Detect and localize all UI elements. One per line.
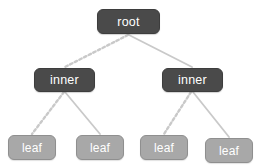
tree-node-inner2[interactable]: inner xyxy=(162,68,223,92)
tree-node-inner1[interactable]: inner xyxy=(34,68,95,92)
tree-edge-root-to-inner2 xyxy=(129,35,192,67)
tree-node-leaf4[interactable]: leaf xyxy=(205,138,253,163)
tree-node-label: inner xyxy=(50,73,79,87)
tree-node-label: leaf xyxy=(219,144,239,158)
tree-node-leaf3[interactable]: leaf xyxy=(140,135,188,160)
tree-diagram: rootinnerinnerleafleafleafleaf xyxy=(0,0,261,168)
tree-node-label: leaf xyxy=(90,141,110,155)
tree-node-leaf1[interactable]: leaf xyxy=(8,135,56,160)
tree-edge-root-to-inner1 xyxy=(65,35,128,67)
tree-node-root[interactable]: root xyxy=(97,9,160,34)
tree-node-label: leaf xyxy=(22,141,42,155)
tree-node-label: leaf xyxy=(154,141,174,155)
tree-node-leaf2[interactable]: leaf xyxy=(76,135,124,160)
tree-edge-inner1-to-leaf1 xyxy=(32,92,64,134)
tree-edge-inner2-to-leaf4 xyxy=(193,92,229,137)
tree-node-label: inner xyxy=(178,73,207,87)
tree-edge-inner1-to-leaf2 xyxy=(65,92,100,134)
tree-node-label: root xyxy=(117,15,139,29)
tree-edge-inner2-to-leaf3 xyxy=(164,92,191,134)
